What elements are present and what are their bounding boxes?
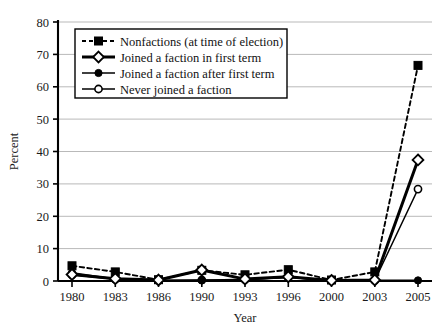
data-point-filled-circle <box>95 69 102 76</box>
y-axis-ticks: 01020304050607080 <box>37 16 59 289</box>
y-axis-title: Percent <box>7 132 21 170</box>
data-point-filled-circle <box>198 277 205 284</box>
series-line <box>72 160 418 281</box>
chart-container: 01020304050607080 1980198319861990199319… <box>0 0 444 336</box>
x-tick-label: 1980 <box>60 290 85 304</box>
x-tick-label: 2000 <box>319 290 344 304</box>
y-tick-label: 20 <box>37 210 50 224</box>
y-tick-label: 60 <box>37 80 50 94</box>
data-point-filled-square <box>95 37 103 45</box>
legend-label: Nonfactions (at time of election) <box>120 35 283 49</box>
y-tick-label: 30 <box>37 177 50 191</box>
data-point-open-diamond <box>413 155 424 166</box>
legend-label: Joined a faction after first term <box>120 67 275 81</box>
x-tick-label: 2003 <box>362 290 387 304</box>
legend-label: Joined a faction in first term <box>120 51 262 65</box>
x-tick-label: 1990 <box>189 290 214 304</box>
x-tick-label: 1983 <box>103 290 128 304</box>
chart-legend: Nonfactions (at time of election)Joined … <box>75 29 287 98</box>
data-point-filled-circle <box>414 277 421 284</box>
y-tick-label: 50 <box>37 113 50 127</box>
y-tick-label: 40 <box>37 145 50 159</box>
data-point-open-circle <box>414 186 421 193</box>
x-tick-label: 1993 <box>233 290 258 304</box>
series-2 <box>67 155 424 286</box>
percent-by-year-line-chart: 01020304050607080 1980198319861990199319… <box>0 0 444 336</box>
x-tick-label: 2005 <box>406 290 431 304</box>
y-tick-label: 10 <box>37 242 50 256</box>
x-tick-label: 1986 <box>146 290 171 304</box>
data-point-open-circle <box>95 85 102 92</box>
y-tick-label: 80 <box>37 16 50 30</box>
y-tick-label: 70 <box>37 48 50 62</box>
legend-label: Never joined a faction <box>120 83 232 97</box>
series-4 <box>68 186 421 285</box>
data-point-open-diamond <box>67 269 78 280</box>
series-line <box>72 189 418 281</box>
data-point-filled-square <box>414 61 422 69</box>
x-axis-title: Year <box>233 311 257 325</box>
x-tick-label: 1996 <box>276 290 301 304</box>
y-tick-label: 0 <box>43 275 49 289</box>
